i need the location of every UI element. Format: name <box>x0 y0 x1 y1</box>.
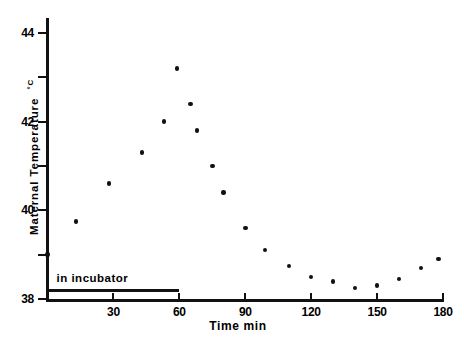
x-tick-90 <box>244 293 246 300</box>
y-axis-line <box>46 18 49 301</box>
x-tick-150 <box>376 293 378 300</box>
data-point <box>243 226 248 231</box>
y-axis-title: Maternal Temperature °C <box>26 62 40 252</box>
data-point <box>263 248 268 253</box>
y-axis-unit: °C <box>26 79 35 90</box>
data-point <box>331 279 336 284</box>
x-tick-label-90: 90 <box>225 305 265 319</box>
data-point <box>175 66 180 71</box>
data-point <box>188 102 193 107</box>
x-tick-180 <box>442 293 444 300</box>
y-tick-label-38: 38 <box>8 292 34 306</box>
y-tick-label-44: 44 <box>8 26 34 40</box>
data-point <box>195 128 200 133</box>
chart-figure: 38404244 306090120150180 Maternal Temper… <box>0 0 464 344</box>
data-point <box>107 181 112 186</box>
x-tick-label-60: 60 <box>159 305 199 319</box>
data-point <box>287 264 292 269</box>
data-point <box>162 119 167 124</box>
x-tick-60 <box>178 293 180 300</box>
data-point <box>375 283 380 288</box>
data-point <box>309 275 314 280</box>
data-point <box>397 277 402 282</box>
x-tick-30 <box>112 293 114 300</box>
data-point <box>436 257 441 262</box>
x-tick-label-150: 150 <box>357 305 397 319</box>
data-point <box>353 286 358 291</box>
data-point <box>45 252 50 257</box>
data-point <box>140 150 145 155</box>
in-incubator-label: in incubator <box>57 272 129 284</box>
y-axis-title-text: Maternal Temperature <box>28 98 40 235</box>
y-tick-38 <box>38 298 47 300</box>
x-tick-label-30: 30 <box>93 305 133 319</box>
x-axis-title: Time min <box>168 319 308 333</box>
y-tick-44 <box>38 32 47 34</box>
x-tick-120 <box>310 293 312 300</box>
in-incubator-span-bar <box>48 289 180 292</box>
data-point <box>210 164 215 169</box>
x-tick-label-120: 120 <box>291 305 331 319</box>
data-point <box>74 219 79 224</box>
data-point <box>221 190 226 195</box>
x-tick-label-180: 180 <box>423 305 463 319</box>
data-point <box>419 266 424 271</box>
